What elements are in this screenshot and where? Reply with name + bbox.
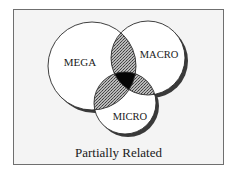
figure-caption: Partially Related: [13, 145, 224, 161]
macro-label: MACRO: [140, 49, 179, 60]
venn-figure: MEGA MACRO MICRO Partially Related: [0, 0, 236, 175]
micro-label: MICRO: [113, 111, 148, 122]
mega-label: MEGA: [64, 56, 96, 68]
